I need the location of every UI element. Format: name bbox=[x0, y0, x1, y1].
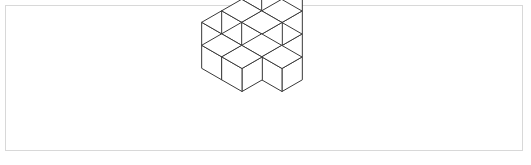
isometric-cube-stack-figure bbox=[0, 0, 531, 165]
cube-group bbox=[202, 0, 302, 92]
